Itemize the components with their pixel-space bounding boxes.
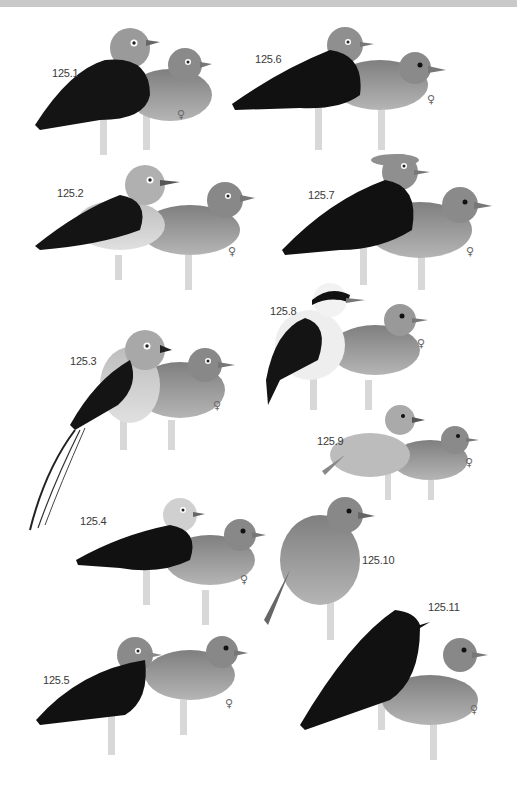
bird-125-10 [264,497,375,640]
species-label-125-10: 125.10 [362,554,394,566]
species-label-125-5: 125.5 [43,674,70,686]
species-label-125-6: 125.6 [255,53,282,65]
bird-125-1 [35,28,212,155]
bird-125-7 [282,154,492,290]
female-symbol: ♀ [427,93,435,106]
species-label-125-1: 125.1 [52,67,79,79]
female-symbol: ♀ [465,456,473,469]
female-symbol: ♀ [466,245,474,258]
species-label-125-7: 125.7 [308,189,335,201]
species-label-125-8: 125.8 [270,305,297,317]
species-label-125-4: 125.4 [80,515,107,527]
female-symbol: ♀ [225,697,233,710]
bird-125-6 [232,27,446,150]
female-symbol: ♀ [228,245,236,258]
species-label-125-3: 125.3 [70,355,97,367]
species-label-125-2: 125.2 [57,187,84,199]
female-symbol: ♀ [213,399,221,412]
bird-125-3 [30,330,235,530]
species-label-125-11: 125.11 [428,601,460,613]
bird-illustrations [0,0,517,789]
female-symbol: ♀ [177,108,185,121]
female-symbol: ♀ [417,337,425,350]
bird-125-5 [36,636,248,755]
bird-plate: 125.1 ♀ 125.6 ♀ 125.2 ♀ 125.7 ♀ 125.8 ♀ … [0,0,517,789]
bird-125-9 [322,405,479,500]
species-label-125-9: 125.9 [317,435,344,447]
bird-125-2 [35,165,255,290]
bird-125-8 [266,283,428,410]
female-symbol: ♀ [240,573,248,586]
female-symbol: ♀ [470,703,478,716]
